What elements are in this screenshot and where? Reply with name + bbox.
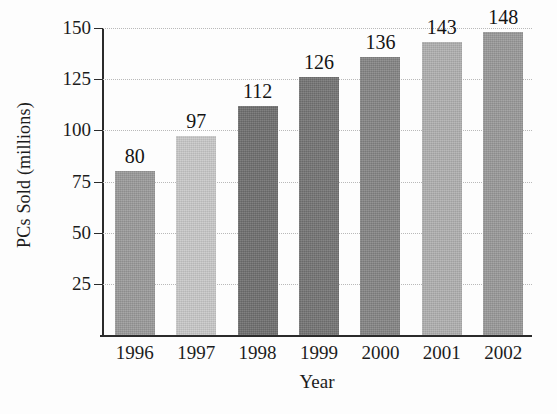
bar: 112 xyxy=(238,106,278,335)
bar-fill xyxy=(176,136,216,335)
bar-value-label: 97 xyxy=(186,110,206,133)
y-tick-label: 50 xyxy=(72,222,91,244)
y-tick-mark xyxy=(94,182,103,183)
bar: 97 xyxy=(176,136,216,335)
y-tick-label: 150 xyxy=(63,17,92,39)
plot-area: 255075100125150 8097112126136143148 1996… xyxy=(102,28,532,337)
bar-fill xyxy=(115,171,155,335)
bar-fill xyxy=(422,42,462,335)
bar-fill xyxy=(299,77,339,335)
bar-value-label: 126 xyxy=(304,51,334,74)
y-tick-label: 75 xyxy=(72,171,91,193)
y-tick-label: 125 xyxy=(63,68,92,90)
bar: 126 xyxy=(299,77,339,335)
bar-chart: PCs Sold (millions) 255075100125150 8097… xyxy=(0,0,557,414)
bar-fill xyxy=(238,106,278,335)
bar-value-label: 143 xyxy=(427,16,457,39)
x-axis-label: 2002 xyxy=(484,342,522,364)
x-axis-title: Year xyxy=(102,371,532,393)
bar-fill xyxy=(360,57,400,335)
x-axis-label: 1998 xyxy=(239,342,277,364)
y-tick-mark xyxy=(94,233,103,234)
bar: 136 xyxy=(360,57,400,335)
y-tick-mark xyxy=(94,28,103,29)
x-axis-label: 2001 xyxy=(423,342,461,364)
x-axis-label: 1997 xyxy=(177,342,215,364)
bar: 80 xyxy=(115,171,155,335)
gridline xyxy=(102,28,532,30)
y-tick-mark xyxy=(94,284,103,285)
bar-value-label: 136 xyxy=(365,31,395,54)
y-tick-mark xyxy=(94,79,103,80)
bar-value-label: 80 xyxy=(125,145,145,168)
x-axis-label: 1999 xyxy=(300,342,338,364)
x-axis-line xyxy=(100,335,532,337)
y-tick-label: 25 xyxy=(72,273,91,295)
x-axis-label: 1996 xyxy=(116,342,154,364)
y-axis-title: PCs Sold (millions) xyxy=(14,5,48,345)
bar-value-label: 148 xyxy=(488,6,518,29)
bar-fill xyxy=(483,32,523,335)
y-tick-mark xyxy=(94,130,103,131)
bar: 148 xyxy=(483,32,523,335)
bar-value-label: 112 xyxy=(243,80,272,103)
y-tick-label: 100 xyxy=(63,119,92,141)
x-axis-label: 2000 xyxy=(361,342,399,364)
bar: 143 xyxy=(422,42,462,335)
